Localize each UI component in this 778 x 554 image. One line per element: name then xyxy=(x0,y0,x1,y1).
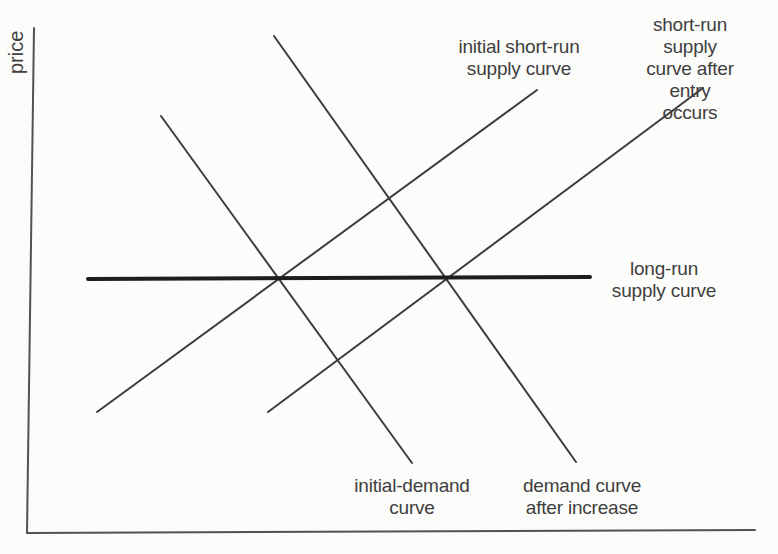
long-run-supply-curve xyxy=(88,277,590,279)
label-short-run-supply-curve-after-entry: short-run supply curve after entry occur… xyxy=(646,14,734,124)
x-axis xyxy=(27,530,755,533)
label-demand-curve-after-increase: demand curve after increase xyxy=(523,475,641,519)
y-axis-label-price: price xyxy=(5,31,27,74)
supply-demand-figure: price initial short-run supply curve sho… xyxy=(0,0,778,554)
label-initial-demand-curve: initial-demand curve xyxy=(354,475,470,519)
label-initial-short-run-supply-curve: initial short-run supply curve xyxy=(458,36,579,80)
y-axis xyxy=(27,28,34,533)
initial-demand-curve xyxy=(161,116,412,463)
initial-short-run-supply-curve xyxy=(97,90,537,412)
short-run-supply-curve-after-entry xyxy=(268,88,703,412)
label-long-run-supply-curve: long-run supply curve xyxy=(612,258,716,302)
